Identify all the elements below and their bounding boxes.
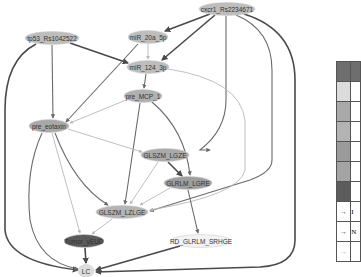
- edge-premcp1-to-preeotaxin: [70, 100, 126, 123]
- edge-tp53-to-lc: [5, 44, 78, 270]
- edge-rdglrlm-to-lc: [96, 246, 180, 270]
- node-preeotaxin[interactable]: pre_eotaxin: [29, 120, 69, 133]
- network-diagram: cxcr1_Rs2234671tp53_Rs1042522miR_20a_5pm…: [0, 0, 361, 277]
- legend-row: [337, 122, 361, 142]
- node-label: GLSZM_LZLGE: [99, 209, 146, 217]
- nodes-layer: cxcr1_Rs2234671tp53_Rs1042522miR_20a_5pm…: [25, 3, 255, 277]
- node-lc[interactable]: LC: [78, 265, 94, 277]
- edge-glszmlgze-to-glrlmlgre: [168, 162, 182, 176]
- node-tumor[interactable]: Tumor_yEUD: [64, 235, 104, 248]
- legend-label: I: [351, 202, 361, 222]
- legend-row: →N: [337, 222, 361, 242]
- node-label: pre_MCP_1: [126, 93, 161, 101]
- node-tp53[interactable]: tp53_Rs1042522: [25, 32, 79, 45]
- node-label: LC: [82, 268, 91, 275]
- edge-cxcr1-to-glszmlzlge: [200, 16, 226, 150]
- legend-header-cell: [337, 62, 351, 82]
- legend-row: [337, 142, 361, 162]
- edge-preeotaxin-to-glszmlgze: [68, 129, 142, 152]
- legend-header-cell: [351, 62, 361, 82]
- legend-header-row: [337, 62, 361, 82]
- legend-table: →I→N→: [336, 61, 361, 262]
- legend-color-swatch: [337, 82, 351, 102]
- legend-label: [351, 162, 361, 182]
- edge-preeotaxin-to-tumor: [52, 133, 80, 233]
- legend-row: [337, 162, 361, 182]
- node-label: GLRLM_LGRE: [166, 180, 210, 188]
- edge-tumor-to-lc: [85, 248, 86, 263]
- legend-label: [351, 82, 361, 102]
- edge-mir124-to-premcp1: [144, 74, 146, 88]
- node-glrlmlgre[interactable]: GLRLM_LGRE: [164, 177, 212, 190]
- legend-row: →: [337, 242, 361, 262]
- legend-arrow-icon: →: [337, 242, 351, 262]
- edge-cxcr1-to-lc: [96, 14, 295, 272]
- edge-glszmlzlge-to-tumor: [92, 219, 112, 234]
- legend-label: N: [351, 222, 361, 242]
- edge-premcp1-to-glszmlzlge: [125, 103, 140, 204]
- edge-tp53-to-preeotaxin: [52, 45, 53, 118]
- legend-color-swatch: [337, 182, 351, 202]
- edges-layer: [5, 14, 295, 272]
- legend-color-swatch: [337, 162, 351, 182]
- legend-color-swatch: [337, 142, 351, 162]
- edge-tp53-to-mir124: [70, 43, 128, 63]
- edge-preeotaxin-to-glszmlzlge: [55, 133, 108, 205]
- legend-label: [351, 122, 361, 142]
- legend-arrow-icon: →: [337, 222, 351, 242]
- node-mir124[interactable]: miR_124_3p: [127, 61, 169, 74]
- node-label: tp53_Rs1042522: [27, 35, 77, 43]
- legend-label: [351, 102, 361, 122]
- legend-row: →I: [337, 202, 361, 222]
- legend-row: [337, 82, 361, 102]
- node-label: RD_GLRLM_SRHGE: [170, 238, 233, 246]
- node-label: Tumor_yEUD: [64, 238, 103, 246]
- node-label: GLSZM_LGZE: [144, 152, 188, 160]
- node-label: pre_eotaxin: [32, 123, 66, 131]
- legend-color-swatch: [337, 122, 351, 142]
- node-label: miR_124_3p: [130, 64, 167, 72]
- node-glszmlgze[interactable]: GLSZM_LGZE: [141, 149, 189, 162]
- legend-label: [351, 242, 361, 262]
- legend-row: [337, 182, 361, 202]
- node-rdglrlm[interactable]: RD_GLRLM_SRHGE: [170, 235, 233, 248]
- node-label: miR_20a_5p: [130, 34, 167, 42]
- legend-arrow-icon: →: [337, 202, 351, 222]
- node-cxcr1[interactable]: cxcr1_Rs2234671: [199, 3, 255, 16]
- edge-glrlmlgre-to-glszmlzlge: [140, 188, 170, 205]
- legend-label: [351, 142, 361, 162]
- legend-row: [337, 102, 361, 122]
- legend-label: [351, 182, 361, 202]
- node-label: cxcr1_Rs2234671: [201, 6, 254, 14]
- legend-color-swatch: [337, 102, 351, 122]
- edge-cxcr1-to-mir20a: [165, 14, 210, 31]
- edge-glszmlgze-to-glszmlzlge: [130, 162, 158, 204]
- node-premcp1[interactable]: pre_MCP_1: [124, 90, 162, 103]
- node-glszmlzlge[interactable]: GLSZM_LZLGE: [96, 206, 148, 219]
- node-mir20a[interactable]: miR_20a_5p: [128, 31, 168, 44]
